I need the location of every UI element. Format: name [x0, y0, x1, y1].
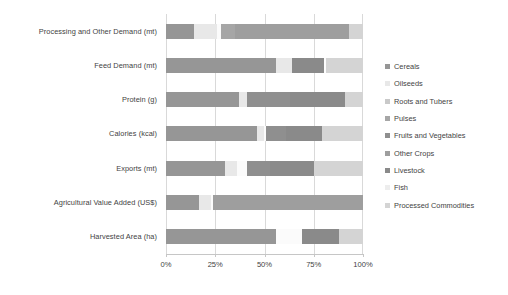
- bar-segment[interactable]: [237, 161, 247, 176]
- legend-item[interactable]: Oilseeds: [385, 75, 508, 92]
- bar-series-container: [166, 14, 363, 254]
- category-label: Protein (g): [0, 95, 162, 104]
- bar-row: [166, 126, 363, 141]
- legend-swatch-icon: [385, 64, 390, 69]
- x-tick-mark: [265, 254, 266, 257]
- bar-segment[interactable]: [314, 161, 363, 176]
- bar-segment[interactable]: [286, 126, 321, 141]
- bar-track: [166, 126, 363, 141]
- x-tick-label: 50%: [257, 259, 272, 270]
- bar-segment[interactable]: [247, 161, 271, 176]
- bar-segment[interactable]: [270, 161, 313, 176]
- bar-segment[interactable]: [345, 92, 363, 107]
- legend-label: Fish: [394, 183, 408, 192]
- category-label: Harvested Area (ha): [0, 232, 162, 241]
- bar-track: [166, 92, 363, 107]
- bar-track: [166, 24, 363, 39]
- legend-swatch-icon: [385, 81, 390, 86]
- legend-label: Pulses: [394, 114, 416, 123]
- bar-track: [166, 161, 363, 176]
- legend-swatch-icon: [385, 151, 390, 156]
- bar-segment[interactable]: [235, 24, 349, 39]
- bar-segment[interactable]: [266, 126, 286, 141]
- bar-segment[interactable]: [349, 24, 363, 39]
- bar-row: [166, 92, 363, 107]
- bar-segment[interactable]: [239, 92, 247, 107]
- category-label: Agricultural Value Added (US$): [0, 198, 162, 207]
- x-tick-mark: [166, 254, 167, 257]
- legend-item[interactable]: Cereals: [385, 58, 508, 75]
- bar-segment[interactable]: [166, 195, 199, 210]
- x-axis-tick-labels: 0%25%50%75%100%: [166, 259, 363, 273]
- category-axis: Processing and Other Demand (mt)Feed Dem…: [0, 14, 162, 254]
- bar-segment[interactable]: [322, 126, 363, 141]
- chart-legend: CerealsOilseedsRoots and TubersPulsesFru…: [385, 58, 508, 214]
- bar-segment[interactable]: [276, 58, 292, 73]
- legend-item[interactable]: Processed Commodities: [385, 196, 508, 213]
- bar-track: [166, 58, 363, 73]
- bar-segment[interactable]: [194, 24, 218, 39]
- bar-segment[interactable]: [290, 92, 345, 107]
- bar-segment[interactable]: [166, 126, 257, 141]
- legend-swatch-icon: [385, 185, 390, 190]
- bar-track: [166, 195, 363, 210]
- x-tick-label: 0%: [161, 259, 172, 270]
- x-tick-mark: [215, 254, 216, 257]
- bar-segment[interactable]: [166, 92, 239, 107]
- bar-segment[interactable]: [326, 58, 363, 73]
- x-tick-mark: [363, 254, 364, 257]
- x-tick-label: 75%: [306, 259, 321, 270]
- bar-segment[interactable]: [276, 229, 302, 244]
- legend-label: Processed Commodities: [394, 201, 474, 210]
- category-label: Feed Demand (mt): [0, 61, 162, 70]
- legend-swatch-icon: [385, 116, 390, 121]
- plot-area: [166, 14, 363, 254]
- category-label: Exports (mt): [0, 164, 162, 173]
- legend-label: Fruits and Vegetables: [394, 131, 466, 140]
- legend-label: Cereals: [394, 62, 419, 71]
- bar-segment[interactable]: [213, 195, 363, 210]
- bar-segment[interactable]: [257, 126, 265, 141]
- bar-segment[interactable]: [302, 229, 339, 244]
- x-tick-label: 25%: [208, 259, 223, 270]
- bar-row: [166, 229, 363, 244]
- bar-segment[interactable]: [292, 58, 324, 73]
- bar-track: [166, 229, 363, 244]
- legend-item[interactable]: Roots and Tubers: [385, 93, 508, 110]
- bar-segment[interactable]: [166, 58, 276, 73]
- bar-segment[interactable]: [166, 161, 225, 176]
- legend-item[interactable]: Livestock: [385, 162, 508, 179]
- bar-row: [166, 195, 363, 210]
- stacked-bar-chart: Processing and Other Demand (mt)Feed Dem…: [0, 0, 508, 295]
- legend-item[interactable]: Pulses: [385, 110, 508, 127]
- legend-label: Oilseeds: [394, 79, 423, 88]
- bar-segment[interactable]: [247, 92, 290, 107]
- x-tick-label: 100%: [353, 259, 372, 270]
- legend-item[interactable]: Fish: [385, 179, 508, 196]
- legend-swatch-icon: [385, 99, 390, 104]
- legend-swatch-icon: [385, 133, 390, 138]
- bar-segment[interactable]: [225, 161, 237, 176]
- legend-label: Roots and Tubers: [394, 97, 452, 106]
- legend-swatch-icon: [385, 203, 390, 208]
- bar-row: [166, 161, 363, 176]
- legend-label: Livestock: [394, 166, 425, 175]
- legend-item[interactable]: Fruits and Vegetables: [385, 127, 508, 144]
- legend-swatch-icon: [385, 168, 390, 173]
- bar-segment[interactable]: [199, 195, 211, 210]
- bar-row: [166, 24, 363, 39]
- bar-segment[interactable]: [339, 229, 363, 244]
- bar-segment[interactable]: [166, 24, 194, 39]
- bar-segment[interactable]: [166, 229, 276, 244]
- category-label: Processing and Other Demand (mt): [0, 27, 162, 36]
- bar-segment[interactable]: [221, 24, 235, 39]
- legend-label: Other Crops: [394, 149, 434, 158]
- legend-item[interactable]: Other Crops: [385, 144, 508, 161]
- category-label: Calories (kcal): [0, 129, 162, 138]
- bar-row: [166, 58, 363, 73]
- x-tick-mark: [314, 254, 315, 257]
